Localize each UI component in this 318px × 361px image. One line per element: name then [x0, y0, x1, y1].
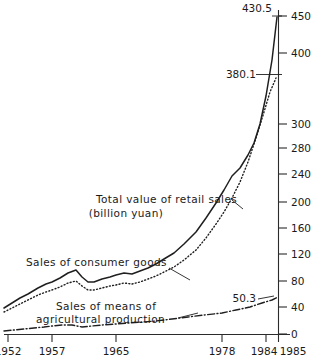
leader-line-annotation-consumer	[169, 268, 190, 280]
y-tick-label-200: 200	[291, 196, 311, 208]
y-tick-label-0: 0	[291, 328, 298, 340]
y-tick-label-160: 160	[291, 222, 311, 234]
y-tick-marks	[279, 16, 288, 334]
annotation-total-retail-sales-line2: (billion yuan)	[89, 207, 164, 219]
value-callout-total-430-5: 430.5	[242, 2, 272, 14]
x-tick-label-1978: 1978	[209, 345, 236, 357]
y-tick-label-80: 80	[291, 275, 304, 287]
x-tick-marks	[8, 335, 279, 343]
x-tick-label-1965: 1965	[103, 345, 130, 357]
y-tick-label-450: 450	[291, 10, 311, 22]
chart-canvas: 450 400 300 280 240 200 160 120 80 40 0 …	[0, 0, 318, 361]
value-callout-agri-50-3: 50.3	[233, 292, 256, 304]
annotation-agricultural-means-line1: Sales of means of	[56, 300, 156, 312]
y-tick-label-300: 300	[291, 118, 311, 130]
y-tick-label-400: 400	[291, 47, 311, 59]
leader-line-agri	[258, 296, 274, 299]
y-tick-label-120: 120	[291, 248, 311, 260]
y-tick-label-240: 240	[291, 168, 311, 180]
x-tick-label-1952: 1952	[0, 345, 21, 357]
value-callout-consumer-380-1: 380.1	[226, 68, 256, 80]
x-tick-label-1957: 1957	[39, 345, 66, 357]
annotation-total-retail-sales-line1: Total value of retail sales	[95, 193, 237, 205]
y-tick-label-280: 280	[291, 142, 311, 154]
annotation-agricultural-means-line2: agricultural production	[36, 313, 165, 325]
x-tick-label-1984: 1984	[251, 345, 278, 357]
y-tick-label-40: 40	[291, 301, 304, 313]
annotation-consumer-goods: Sales of consumer goods	[26, 256, 167, 268]
retail-sales-line-chart: 450 400 300 280 240 200 160 120 80 40 0 …	[0, 0, 318, 361]
x-tick-label-1985: 1985	[280, 345, 307, 357]
